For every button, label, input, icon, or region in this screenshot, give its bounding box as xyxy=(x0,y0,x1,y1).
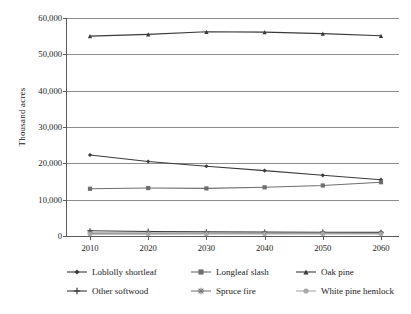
gridline xyxy=(66,236,399,237)
legend-label: Other softwood xyxy=(92,287,148,296)
legend-item[interactable]: White pine hemlock xyxy=(295,281,405,301)
data-point-diamond xyxy=(74,269,79,274)
x-tick-mark xyxy=(265,236,266,240)
legend-row: Loblolly shortleafLongleaf slashOak pine xyxy=(66,262,406,282)
data-point-diamond xyxy=(321,173,325,177)
series-line xyxy=(88,153,383,182)
data-point-square xyxy=(263,185,267,189)
y-tick-label: 0 xyxy=(58,231,62,241)
y-tick-label: 50,000 xyxy=(38,49,62,59)
chart-legend: Loblolly shortleafLongleaf slashOak pine… xyxy=(66,262,406,306)
series-polyline xyxy=(90,32,381,36)
data-point-circle xyxy=(379,232,383,236)
legend-label: Longleaf slash xyxy=(216,268,269,277)
x-tick-mark xyxy=(206,236,207,240)
x-tick-label: 2010 xyxy=(81,243,98,253)
x-tick-mark xyxy=(90,236,91,240)
x-tick-mark xyxy=(323,236,324,240)
legend-label: Oak pine xyxy=(321,268,354,277)
data-point-circle xyxy=(321,232,325,236)
legend-label: White pine hemlock xyxy=(321,287,394,296)
legend-marker-circle-icon xyxy=(295,285,317,297)
series-polyline xyxy=(90,182,381,189)
y-tick-label: 30,000 xyxy=(38,122,62,132)
data-point-diamond xyxy=(146,159,150,163)
data-point-circle xyxy=(146,232,150,236)
data-point-star xyxy=(198,288,204,294)
series-polyline xyxy=(90,231,381,233)
legend-label: Loblolly shortleaf xyxy=(92,268,157,277)
legend-marker-star-icon xyxy=(190,285,212,297)
y-axis-title: Thousand acres xyxy=(17,62,27,172)
y-tick-mark xyxy=(63,236,66,237)
data-point-square xyxy=(379,180,383,184)
series-line xyxy=(88,180,383,191)
data-point-circle xyxy=(88,232,92,236)
y-tick-label: 40,000 xyxy=(38,86,62,96)
legend-marker-cross-icon xyxy=(66,285,88,297)
legend-row: Other softwoodSpruce fireWhite pine heml… xyxy=(66,281,406,301)
plot-area: 010,00020,00030,00040,00050,00060,000 20… xyxy=(66,18,399,236)
data-point-diamond xyxy=(263,169,267,173)
series-group xyxy=(66,18,399,236)
legend-item[interactable]: Other softwood xyxy=(66,281,190,301)
legend-marker-square-icon xyxy=(190,266,212,278)
series-line xyxy=(88,30,383,39)
legend-label: Spruce fire xyxy=(216,287,256,296)
legend-item[interactable]: Spruce fire xyxy=(190,281,295,301)
data-point-circle xyxy=(263,232,267,236)
x-tick-label: 2030 xyxy=(198,243,215,253)
data-point-circle xyxy=(303,288,308,293)
data-point-square xyxy=(204,186,208,190)
data-point-square xyxy=(146,186,150,190)
x-tick-mark xyxy=(148,236,149,240)
legend-marker-diamond-icon xyxy=(66,266,88,278)
data-point-square xyxy=(88,187,92,191)
y-tick-label: 60,000 xyxy=(38,13,62,23)
legend-item[interactable]: Oak pine xyxy=(295,262,405,282)
x-tick-label: 2060 xyxy=(372,243,389,253)
x-tick-mark xyxy=(381,236,382,240)
y-tick-label: 10,000 xyxy=(38,195,62,205)
series-polyline xyxy=(90,155,381,180)
data-point-diamond xyxy=(88,153,92,157)
legend-marker-triangle-icon xyxy=(295,266,317,278)
x-tick-label: 2040 xyxy=(256,243,273,253)
legend-item[interactable]: Longleaf slash xyxy=(190,262,295,282)
x-tick-label: 2050 xyxy=(314,243,331,253)
line-chart-figure: Thousand acres 010,00020,00030,00040,000… xyxy=(0,0,411,314)
data-point-cross xyxy=(74,288,80,294)
data-point-circle xyxy=(204,232,208,236)
legend-item[interactable]: Loblolly shortleaf xyxy=(66,262,190,282)
x-tick-label: 2020 xyxy=(140,243,157,253)
data-point-square xyxy=(321,183,325,187)
y-tick-label: 20,000 xyxy=(38,158,62,168)
data-point-square xyxy=(198,269,203,274)
data-point-diamond xyxy=(204,164,208,168)
